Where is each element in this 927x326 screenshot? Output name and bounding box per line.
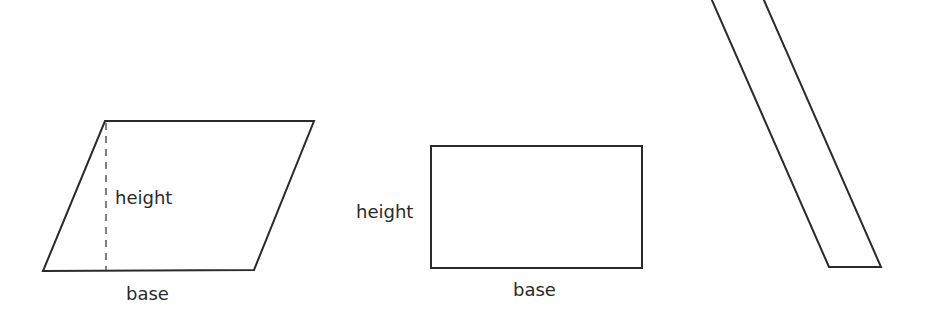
parallelogram-base-label: base	[126, 283, 169, 304]
parallelogram-height-label: height	[115, 187, 172, 208]
rectangle-height-label: height	[356, 201, 413, 222]
slanted-strip-figure	[711, 0, 881, 267]
diagram-svg: height base height base	[0, 0, 927, 326]
area-diagram: height base height base	[0, 0, 927, 326]
parallelogram-figure: height base	[43, 121, 314, 304]
slanted-strip-shape	[711, 0, 881, 267]
rectangle-shape	[431, 146, 642, 268]
rectangle-base-label: base	[513, 279, 556, 300]
parallelogram-shape	[43, 121, 314, 271]
rectangle-figure: height base	[356, 146, 642, 300]
